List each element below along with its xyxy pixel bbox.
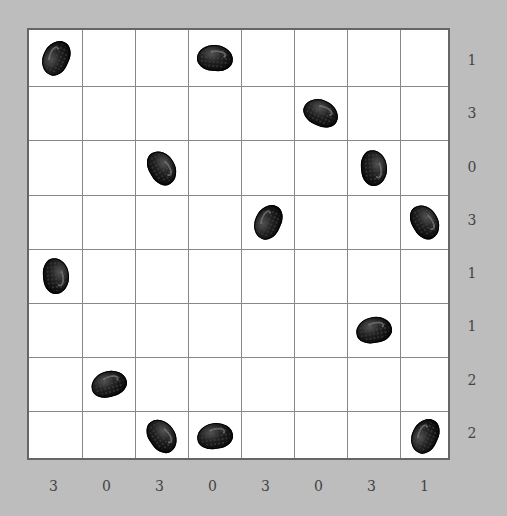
bean-icon [41, 257, 70, 295]
grid-cell[interactable] [241, 249, 294, 303]
grid-cell[interactable] [347, 195, 400, 249]
grid-cell[interactable] [241, 303, 294, 357]
row-clue: 1 [462, 265, 482, 281]
grid-cell[interactable] [347, 140, 400, 195]
bean-icon [248, 200, 287, 244]
grid-cell[interactable] [294, 140, 347, 195]
grid-cell[interactable] [188, 411, 241, 460]
grid-cell[interactable] [241, 357, 294, 411]
grid-cell[interactable] [135, 195, 188, 249]
grid-cell[interactable] [347, 30, 400, 86]
grid-cell[interactable] [400, 357, 450, 411]
grid-cell[interactable] [400, 195, 450, 249]
column-clue: 0 [80, 478, 133, 494]
grid-cell[interactable] [29, 249, 82, 303]
column-clue: 1 [398, 478, 451, 494]
bean-icon [195, 420, 234, 451]
bean-icon [141, 145, 182, 189]
grid-cell[interactable] [188, 195, 241, 249]
grid-cell[interactable] [347, 357, 400, 411]
bean-icon [405, 200, 446, 244]
column-clue: 0 [186, 478, 239, 494]
grid-cell[interactable] [400, 140, 450, 195]
grid-cell[interactable] [241, 30, 294, 86]
grid-cell[interactable] [135, 249, 188, 303]
grid-cell[interactable] [29, 86, 82, 140]
grid-cell[interactable] [82, 86, 135, 140]
game-board [27, 28, 450, 460]
grid-cell[interactable] [400, 249, 450, 303]
grid-cell[interactable] [294, 411, 347, 460]
column-clue: 3 [27, 478, 80, 494]
row-clue: 2 [462, 372, 482, 388]
bean-icon [195, 43, 233, 72]
column-clue: 3 [345, 478, 398, 494]
grid-cell[interactable] [241, 411, 294, 460]
grid-cell[interactable] [294, 30, 347, 86]
grid-cell[interactable] [135, 357, 188, 411]
grid-cell[interactable] [294, 303, 347, 357]
row-clue: 3 [462, 212, 482, 228]
bean-icon [141, 413, 183, 457]
grid-cell[interactable] [29, 411, 82, 460]
grid-cell[interactable] [400, 303, 450, 357]
grid-cell[interactable] [29, 195, 82, 249]
grid-cell[interactable] [347, 86, 400, 140]
row-clue: 2 [462, 425, 482, 441]
grid-cell[interactable] [347, 249, 400, 303]
grid-cell[interactable] [135, 140, 188, 195]
bean-icon [36, 36, 75, 80]
grid-cell[interactable] [82, 303, 135, 357]
grid-cell[interactable] [241, 140, 294, 195]
row-clue: 0 [462, 159, 482, 175]
bean-icon [406, 414, 445, 458]
grid-cell[interactable] [188, 140, 241, 195]
grid-cell[interactable] [135, 411, 188, 460]
grid-cell[interactable] [294, 86, 347, 140]
row-clue: 1 [462, 318, 482, 334]
grid-cell[interactable] [400, 86, 450, 140]
grid-cell[interactable] [188, 30, 241, 86]
bean-icon [359, 148, 388, 186]
grid-cell[interactable] [82, 411, 135, 460]
grid-cell[interactable] [347, 411, 400, 460]
grid-cell[interactable] [347, 303, 400, 357]
row-clue: 1 [462, 52, 482, 68]
grid-cell[interactable] [188, 86, 241, 140]
bean-icon [88, 367, 130, 401]
grid-cell[interactable] [135, 30, 188, 86]
bean-icon [299, 94, 343, 133]
grid-cell[interactable] [29, 357, 82, 411]
grid-cell[interactable] [241, 86, 294, 140]
grid-cell[interactable] [82, 140, 135, 195]
grid-cell[interactable] [188, 249, 241, 303]
grid-cell[interactable] [188, 357, 241, 411]
grid-cell[interactable] [400, 30, 450, 86]
row-clue: 3 [462, 105, 482, 121]
grid-cell[interactable] [29, 303, 82, 357]
grid-cell[interactable] [29, 30, 82, 86]
grid-cell[interactable] [82, 30, 135, 86]
grid-cell[interactable] [400, 411, 450, 460]
grid-cell[interactable] [135, 86, 188, 140]
grid-cell[interactable] [82, 357, 135, 411]
grid-cell[interactable] [294, 195, 347, 249]
grid-cell[interactable] [188, 303, 241, 357]
grid-cell[interactable] [29, 140, 82, 195]
column-clue: 3 [239, 478, 292, 494]
column-clue: 0 [292, 478, 345, 494]
grid-cell[interactable] [82, 249, 135, 303]
bean-icon [354, 314, 394, 346]
grid-cell[interactable] [135, 303, 188, 357]
grid-cell[interactable] [294, 357, 347, 411]
grid-cell[interactable] [294, 249, 347, 303]
grid-cell[interactable] [82, 195, 135, 249]
column-clue: 3 [133, 478, 186, 494]
grid-cell[interactable] [241, 195, 294, 249]
